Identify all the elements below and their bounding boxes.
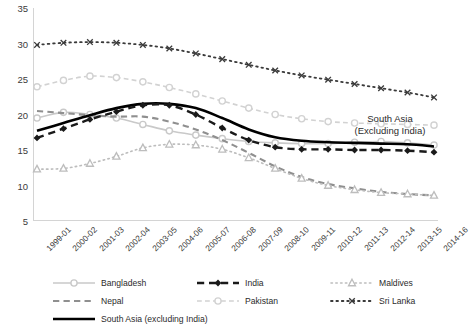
data-point-marker [87,73,93,79]
data-point-marker [215,297,221,303]
data-point-marker [60,77,66,83]
annotation-south-asia: South Asia (Excluding India) [338,113,442,137]
x-tick-text: 2002-04 [124,225,153,254]
y-tick-label: 20 [17,109,28,120]
data-point-marker [86,160,93,167]
x-tick-label: 2009-11 [309,221,337,249]
data-point-marker [140,79,146,85]
data-point-marker [60,125,67,132]
data-point-marker [351,147,358,154]
legend-label: Nepal [101,296,123,306]
data-point-marker [325,182,332,189]
data-point-marker [34,115,40,121]
data-point-marker [140,121,146,127]
data-point-marker [193,91,199,97]
data-point-marker [325,119,331,125]
x-tick-text: 2010-12 [335,225,364,254]
data-point-marker [219,145,226,152]
x-tick-label: 2004-06 [177,221,206,250]
legend-swatch [330,277,374,289]
data-point-marker [71,279,77,285]
legend-label: Sri Lanka [379,296,415,306]
x-tick-label: 2012-14 [389,221,418,250]
data-point-marker [192,141,199,148]
data-point-marker [404,190,411,197]
data-point-marker [404,147,411,154]
x-tick-label: 2002-04 [124,221,153,250]
x-axis-labels: 1999-012000-022001-032002-042003-052004-… [33,221,438,273]
legend-item-maldives[interactable]: Maldives [330,274,413,291]
legend-item-india[interactable]: India [196,274,264,291]
x-tick-text: 2013-15 [415,225,444,254]
y-tick-label: 30 [17,38,28,49]
x-tick-label: 2014-16 [442,221,471,250]
x-tick-text: 2012-14 [388,225,417,254]
y-tick-label: 35 [17,3,28,14]
data-point-marker [431,192,438,199]
y-axis-labels: 5101520253035 [0,0,33,229]
legend-swatch [52,295,96,307]
y-tick-label: 15 [17,145,28,156]
legend-label: Bangladesh [101,278,146,288]
x-tick-text: 2014-16 [441,225,470,254]
data-point-marker [34,135,41,142]
series-line [37,42,434,97]
x-tick-text: 2000-02 [71,225,100,254]
data-point-marker [34,165,41,172]
data-point-marker [378,147,385,154]
legend-label: India [245,278,264,288]
annotation-line-2: (Excluding India) [338,125,442,137]
data-point-marker [113,153,120,160]
data-point-marker [34,84,40,90]
legend-swatch [196,277,240,289]
x-tick-text: 2004-06 [177,225,206,254]
data-point-marker [60,165,67,172]
data-point-marker [349,279,356,286]
legend-item-pakistan[interactable]: Pakistan [196,292,278,309]
data-point-marker [193,132,199,138]
legend-swatch [330,295,374,307]
data-point-marker [246,105,252,111]
legend-label: South Asia (excluding India) [101,314,208,324]
legend-label: Pakistan [245,296,278,306]
y-tick-label: 25 [17,74,28,85]
data-point-marker [431,149,438,156]
legend-swatch [52,313,96,325]
x-tick-text: 2001-03 [97,225,126,254]
x-tick-label: 2006-08 [230,221,259,250]
data-point-marker [325,146,332,153]
x-tick-label: 2000-02 [71,221,100,250]
x-tick-label: 2007-09 [257,221,286,250]
data-point-marker [215,279,222,286]
x-tick-label: 2013-15 [415,221,444,250]
legend-item-bangladesh[interactable]: Bangladesh [52,274,146,291]
legend-item-sri-lanka[interactable]: Sri Lanka [330,292,415,309]
annotation-line-1: South Asia [338,113,442,125]
x-tick-text: 1999-01 [44,225,73,254]
x-tick-text: 2003-05 [150,225,179,254]
legend-swatch [52,277,96,289]
y-tick-label: 5 [23,216,28,227]
legend-label: Maldives [379,278,413,288]
data-point-marker [113,74,119,80]
series-line [37,144,434,195]
data-point-marker [166,141,173,148]
x-tick-label: 2011-13 [362,221,390,249]
x-tick-text: 2006-08 [229,225,258,254]
data-point-marker [272,111,278,117]
x-tick-text: 2007-09 [256,225,285,254]
legend-item-nepal[interactable]: Nepal [52,292,123,309]
x-tick-text: 2011-13 [362,225,390,253]
legend-swatch [196,295,240,307]
x-tick-text: 2009-11 [309,225,337,253]
data-point-marker [299,116,305,122]
legend-item-south-asia-excluding-india[interactable]: South Asia (excluding India) [52,310,208,327]
data-point-marker [166,84,172,90]
data-point-marker [139,144,146,151]
y-tick-label: 10 [17,180,28,191]
x-tick-text: 2005-07 [203,225,232,254]
x-tick-label: 2008-10 [283,221,312,250]
data-point-marker [298,146,305,153]
x-tick-text: 2008-10 [282,225,311,254]
